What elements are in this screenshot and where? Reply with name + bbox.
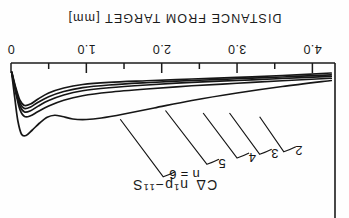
x-tick-label: 2.0: [152, 42, 171, 56]
label-leader-lines: [120, 111, 296, 177]
leader-line: [230, 113, 272, 154]
curve-n6: [12, 73, 331, 136]
leader-line: [120, 119, 175, 177]
x-axis-title: DISTANCE FROM TARGET [mm]: [0, 11, 349, 25]
curve-3: [12, 72, 331, 109]
leader-line: [203, 113, 249, 158]
transition-label-delta: Δ: [195, 177, 206, 193]
x-tick-label: 0: [7, 42, 14, 56]
x-tick-label: 1.0: [77, 42, 96, 56]
x-tick-label: 4.0: [303, 42, 322, 56]
rotated-figure-group: 01.02.03.04.0 2345n = 6 DISTANCE FROM TA…: [0, 0, 349, 218]
data-curves: [12, 72, 331, 136]
x-axis-ticks: [11, 63, 312, 73]
curve-label: 4: [248, 150, 256, 165]
x-tick-label: 3.0: [228, 42, 247, 56]
transition-label-c: C: [206, 177, 217, 193]
curve-label: 5: [218, 156, 226, 171]
curve-label: 2: [295, 144, 303, 159]
curve-label: 3: [271, 146, 279, 161]
figure-canvas: 01.02.03.04.0 2345n = 6 DISTANCE FROM TA…: [0, 0, 349, 218]
leader-line: [165, 111, 218, 165]
transition-label-rest: n¹p−¹¹S: [132, 177, 188, 193]
transition-label: CΔn¹p−¹¹S: [0, 177, 349, 193]
